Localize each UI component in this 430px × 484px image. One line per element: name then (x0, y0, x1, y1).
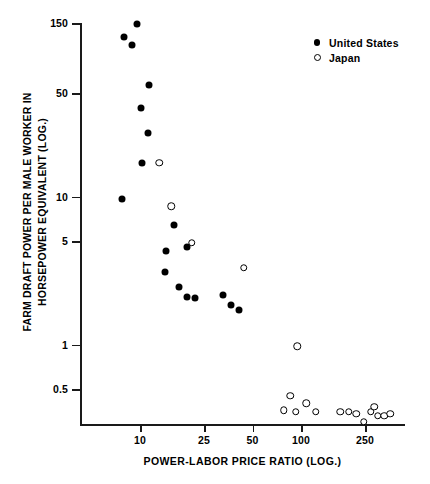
y-tick-label: 0.5 (0, 383, 72, 395)
y-tick-mark (72, 345, 80, 347)
legend-item: Japan (311, 51, 399, 64)
data-point-jp (188, 239, 196, 247)
x-tick-label: 10 (134, 434, 146, 446)
data-point-us (162, 268, 169, 275)
data-point-jp (370, 403, 378, 411)
data-point-us (144, 130, 151, 137)
data-point-us (163, 247, 170, 254)
y-tick-label: 1 (0, 339, 72, 351)
legend-item: United States (311, 36, 399, 49)
x-tick-mark (301, 424, 303, 432)
data-point-us (137, 104, 144, 111)
data-point-us (139, 159, 146, 166)
data-point-us (134, 20, 141, 27)
open-circle-icon (311, 54, 323, 61)
data-point-us (184, 293, 191, 300)
y-tick-label: 5 (0, 235, 72, 247)
data-point-us (220, 292, 227, 299)
filled-circle-icon (311, 39, 323, 46)
y-axis-title: FARM DRAFT POWER PER MALE WORKER IN HORS… (0, 0, 70, 424)
x-axis-title: POWER-LABOR PRICE RATIO (LOG.) (80, 455, 405, 467)
data-point-jp (240, 264, 248, 272)
data-point-jp (303, 400, 311, 408)
y-tick-label: 150 (0, 17, 72, 29)
data-point-jp (337, 408, 345, 416)
data-point-us (121, 34, 128, 41)
y-tick-mark (72, 389, 80, 391)
x-tick-mark (365, 424, 367, 432)
data-point-jp (294, 343, 302, 351)
legend-label: Japan (329, 52, 360, 64)
legend: United StatesJapan (311, 36, 399, 66)
x-tick-mark (140, 424, 142, 432)
data-point-jp (280, 406, 288, 414)
data-point-us (171, 222, 178, 229)
data-point-jp (287, 392, 295, 400)
y-tick-label: 10 (0, 191, 72, 203)
x-tick-label: 100 (292, 434, 310, 446)
data-point-jp (312, 408, 320, 416)
data-point-us (227, 302, 234, 309)
y-tick-mark (72, 23, 80, 25)
data-point-us (128, 41, 135, 48)
y-tick-label: 50 (0, 87, 72, 99)
data-point-jp (345, 408, 353, 416)
scatter-plot: FARM DRAFT POWER PER MALE WORKER IN HORS… (0, 0, 430, 484)
data-point-us (176, 284, 183, 291)
data-point-jp (387, 410, 395, 418)
x-tick-label: 25 (198, 434, 210, 446)
data-point-us (235, 307, 242, 314)
data-point-jp (167, 203, 175, 211)
x-tick-label: 250 (356, 434, 374, 446)
y-tick-mark (72, 241, 80, 243)
y-tick-mark (72, 197, 80, 199)
y-tick-mark (72, 93, 80, 95)
data-point-us (118, 195, 125, 202)
x-tick-mark (253, 424, 255, 432)
y-axis-line (80, 23, 82, 425)
data-point-jp (292, 408, 300, 416)
y-axis-title-line1: FARM DRAFT POWER PER MALE WORKER IN (20, 92, 35, 331)
x-axis-line (80, 424, 405, 426)
data-point-jp (156, 159, 164, 167)
data-point-us (146, 82, 153, 89)
data-point-jp (353, 410, 361, 418)
y-axis-title-line2: HORSEPOWER EQUIVALENT (LOG.) (35, 92, 50, 331)
data-point-us (192, 295, 199, 302)
x-tick-label: 50 (247, 434, 259, 446)
x-tick-mark (204, 424, 206, 432)
legend-label: United States (329, 37, 399, 49)
data-point-jp (360, 418, 368, 426)
